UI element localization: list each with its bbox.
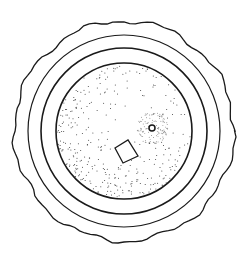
wavy-outer-edge — [12, 22, 236, 243]
stippled-disk-shading — [57, 66, 190, 198]
central-disk — [56, 63, 192, 199]
outer-ring — [28, 35, 220, 227]
illustration-canvas — [0, 0, 248, 256]
circular-object-drawing — [0, 0, 248, 256]
quadrilateral-plate — [115, 140, 138, 163]
inner-ring — [41, 48, 207, 214]
small-boss-knob — [149, 125, 155, 131]
boss-halo-shading — [137, 113, 168, 144]
